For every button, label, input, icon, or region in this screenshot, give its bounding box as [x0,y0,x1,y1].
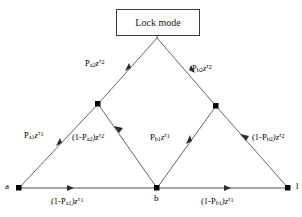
edge-left-apex-to-top-apex [98,38,157,104]
lock-mode-label: Lock mode [117,10,199,35]
edge-a-to-left-apex [19,104,98,188]
edge-label-one-minus-p-a1: (1-Pa1)zτ1 [51,196,83,206]
arrowhead-right-apex-to-l [240,134,249,141]
edge-left-apex-to-b [98,104,157,188]
arrowhead-a-to-left-apex [56,138,62,146]
arrowhead-b-to-right-apex [186,135,192,144]
lock-mode-box: Lock mode [116,9,200,36]
node-dot-b [154,185,160,191]
node-dot-right-apex [213,103,219,109]
edge-label-one-minus-p-b1: (1-Pb1)zτ1 [201,196,234,206]
edge-label-one-minus-p-b2: (1-Pb2)zτ2 [252,132,285,142]
node-dot-left-apex [95,101,101,107]
edge-label-p-a1: Pa1zτ1 [24,130,43,140]
node-dot-a [16,185,22,191]
node-label-l: l [296,182,299,191]
edge-b-to-right-apex [157,106,216,188]
edge-label-p-a2: Pa2zτ2 [85,58,104,68]
node-label-b: b [154,194,159,203]
arrowhead-left-apex-to-b [114,126,123,133]
arrowhead-b-to-l [224,185,231,191]
edge-label-p-b1: Pb1zτ1 [150,132,170,142]
edge-right-apex-to-l [216,106,288,188]
signal-flow-diagram: Lock mode Pa2zτ2 Pb2zτ2 Pa1zτ1 (1-Pa2)zτ… [0,0,302,217]
edge-label-p-b2: Pb2zτ2 [192,63,212,73]
arrowheads [56,63,249,191]
node-dot-l [285,185,291,191]
edge-label-one-minus-p-a2: (1-Pa2)zτ2 [72,132,104,142]
arrowhead-a-to-b [67,185,74,191]
node-dots [16,101,291,191]
node-label-a: a [5,182,9,191]
